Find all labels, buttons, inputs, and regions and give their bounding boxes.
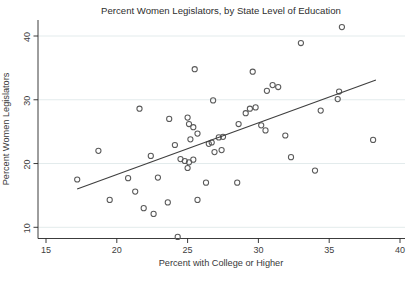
data-point xyxy=(253,105,258,110)
data-point xyxy=(211,98,216,103)
scatter-points xyxy=(75,25,376,240)
y-tick-label: 30 xyxy=(22,96,32,106)
x-tick-label: 25 xyxy=(183,245,193,255)
data-point xyxy=(191,157,196,162)
data-point xyxy=(288,155,293,160)
data-point xyxy=(263,128,268,133)
data-point xyxy=(276,84,281,89)
data-point xyxy=(259,123,264,128)
data-point xyxy=(191,125,196,130)
data-point xyxy=(172,142,177,147)
x-tick-labels: 152025303540 xyxy=(41,239,405,255)
data-point xyxy=(185,165,190,170)
y-tick-label: 20 xyxy=(22,160,32,170)
x-tick-label: 15 xyxy=(41,245,51,255)
x-tick-label: 30 xyxy=(253,245,263,255)
data-point xyxy=(188,137,193,142)
scatter-chart: 152025303540 10203040 Percent Women Legi… xyxy=(0,0,413,281)
data-point xyxy=(318,108,323,113)
data-point xyxy=(212,150,217,155)
data-point xyxy=(250,69,255,74)
data-point xyxy=(312,168,317,173)
data-point xyxy=(235,180,240,185)
y-tick-label: 10 xyxy=(22,223,32,233)
data-point xyxy=(155,175,160,180)
data-point xyxy=(165,200,170,205)
data-point xyxy=(298,40,303,45)
gridlines xyxy=(38,36,405,227)
data-point xyxy=(133,189,138,194)
data-point xyxy=(195,197,200,202)
data-point xyxy=(195,131,200,136)
x-tick-label: 20 xyxy=(112,245,122,255)
data-point xyxy=(247,106,252,111)
data-point xyxy=(192,67,197,72)
data-point xyxy=(219,148,224,153)
data-point xyxy=(167,116,172,121)
y-tick-labels: 10203040 xyxy=(22,32,38,233)
data-point xyxy=(151,211,156,216)
data-point xyxy=(107,197,112,202)
data-point xyxy=(371,137,376,142)
data-point xyxy=(335,97,340,102)
data-point xyxy=(148,153,153,158)
data-point xyxy=(264,88,269,93)
data-point xyxy=(243,111,248,116)
data-point xyxy=(185,115,190,120)
axes xyxy=(38,20,405,239)
data-point xyxy=(339,25,344,30)
data-point xyxy=(283,133,288,138)
chart-title: Percent Women Legislators, by State Leve… xyxy=(101,5,341,16)
y-tick-label: 40 xyxy=(22,32,32,42)
data-point xyxy=(137,106,142,111)
data-point xyxy=(96,148,101,153)
regression-line xyxy=(77,80,376,189)
data-point xyxy=(270,83,275,88)
data-point xyxy=(236,121,241,126)
data-point xyxy=(126,176,131,181)
plot-canvas: 152025303540 10203040 Percent Women Legi… xyxy=(0,0,413,281)
data-point xyxy=(203,180,208,185)
data-point xyxy=(75,177,80,182)
x-tick-label: 35 xyxy=(324,245,334,255)
x-axis-label: Percent with College or Higher xyxy=(159,258,284,268)
data-point xyxy=(141,206,146,211)
x-tick-label: 40 xyxy=(395,245,405,255)
fit-line xyxy=(77,80,376,189)
y-axis-label: Percent Women Legislators xyxy=(1,72,11,185)
